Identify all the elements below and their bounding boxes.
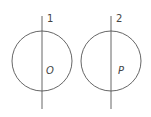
figure-1: 1 O (12, 13, 72, 109)
figure-2: 2 P (81, 13, 141, 109)
line-label-2: 2 (116, 13, 122, 24)
point-label-p: P (118, 65, 125, 76)
line-label-1: 1 (47, 13, 53, 24)
point-label-o: O (46, 65, 54, 76)
diagram-canvas: 1 O 2 P (0, 0, 151, 117)
